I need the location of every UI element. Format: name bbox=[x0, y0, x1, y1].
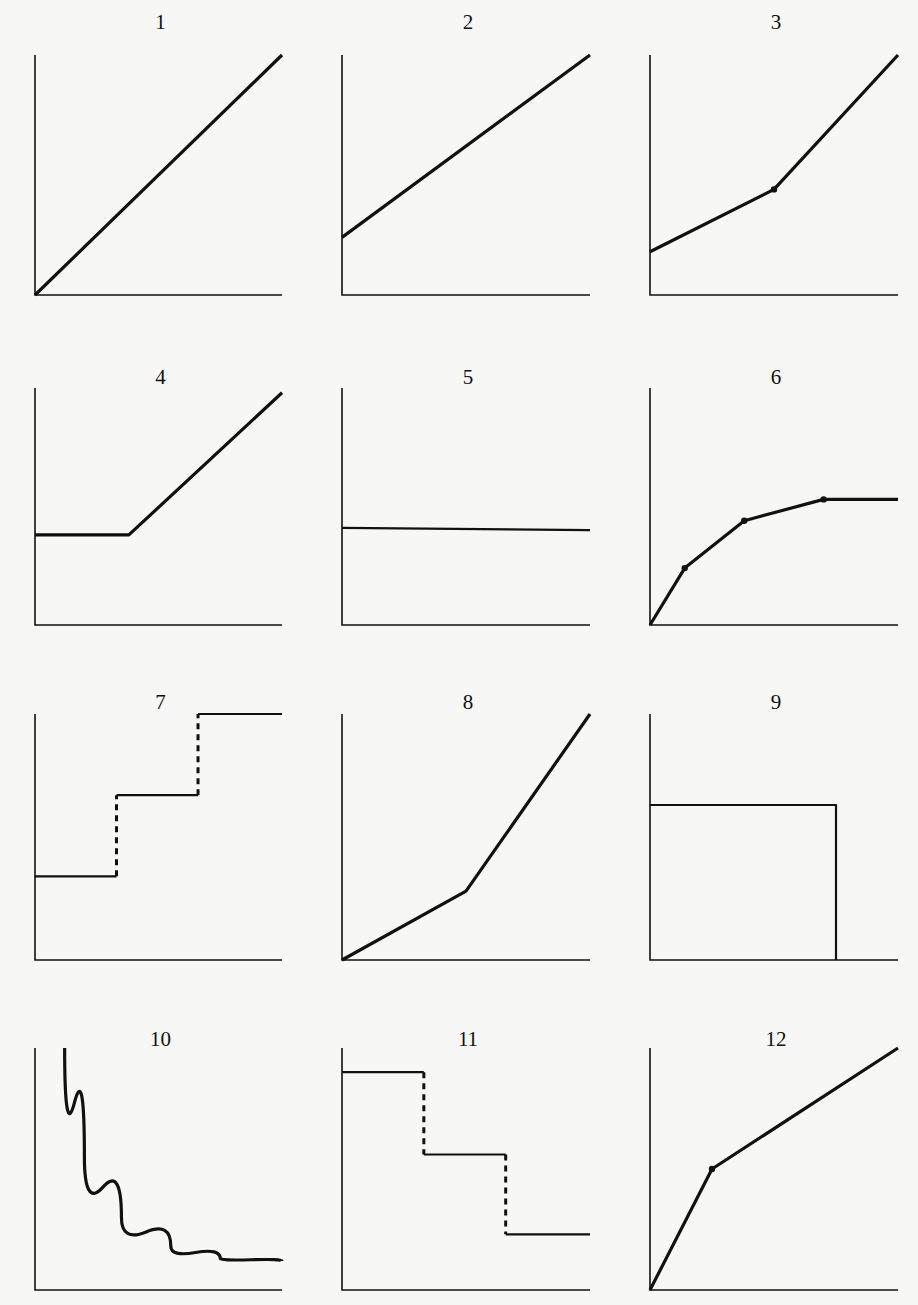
breakpoint-dot bbox=[709, 1166, 715, 1172]
cost-line bbox=[650, 1048, 898, 1290]
graph-plot-area bbox=[0, 0, 918, 1305]
axes bbox=[650, 1048, 898, 1290]
